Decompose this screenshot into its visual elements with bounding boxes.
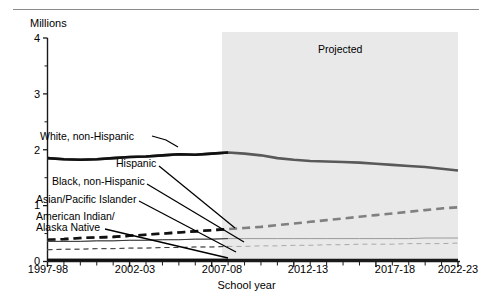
y-tick-label-3: 3 [24,89,40,100]
leader-white [152,136,178,147]
x-tick-label-2002-03: 2002-03 [100,264,170,275]
x-tick-label-2012-13: 2012-13 [273,264,343,275]
x-tick-label-2017-18: 2017-18 [360,264,430,275]
series-line-historical-3 [48,246,229,249]
x-tick-label-1997-98: 1997-98 [13,264,83,275]
series-label-american-indian-line2: Alaska Native [36,222,100,234]
series-label-hispanic: Hispanic [116,158,156,170]
y-tick-label-2: 2 [24,145,40,156]
chart-figure: Millions 4 3 2 1 0 1997-98 2002-03 2007-… [0,0,493,298]
x-axis-title: School year [0,279,493,291]
series-label-asian: Asian/Pacific Islander [36,194,136,206]
series-label-black: Black, non-Hispanic [52,176,145,188]
projected-label: Projected [318,44,362,55]
y-tick-label-4: 4 [24,33,40,44]
series-label-white: White, non-Hispanic [40,131,134,143]
plot-canvas [0,0,493,298]
x-tick-label-2007-08: 2007-08 [187,264,257,275]
x-tick-label-2022-23: 2022-23 [423,264,493,275]
